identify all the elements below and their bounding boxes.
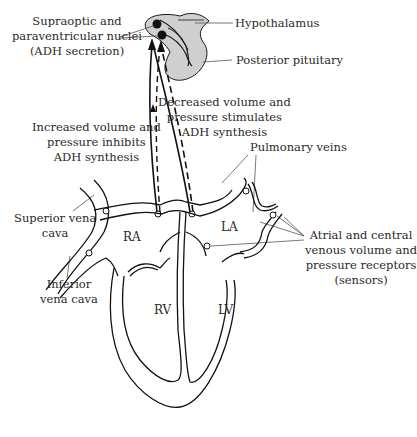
- label-hypothalamus: Hypothalamus: [235, 16, 319, 31]
- label-line: ADH synthesis: [158, 125, 291, 140]
- label-line: paraventricular nuclei: [12, 29, 142, 44]
- label-line: pressure inhibits: [32, 135, 161, 150]
- label-line: Supraoptic and: [12, 14, 142, 29]
- label-atrial-receptors: Atrial and central venous volume and pre…: [305, 228, 417, 288]
- label-line: Atrial and central: [305, 228, 417, 243]
- label-line: pressure stimulates: [158, 110, 291, 125]
- label-line: (ADH secretion): [12, 44, 142, 59]
- label-pulmonary-veins: Pulmonary veins: [250, 140, 347, 155]
- label-left-ventricle: LV: [218, 303, 233, 318]
- label-right-ventricle: RV: [154, 303, 171, 318]
- label-inferior-vena-cava: Inferior vena cava: [40, 277, 98, 307]
- label-line: Inferior: [40, 277, 98, 292]
- label-left-atrium: LA: [221, 220, 238, 235]
- label-line: Increased volume and: [32, 120, 161, 135]
- receptor-sensors: [86, 188, 276, 256]
- label-line: Decreased volume and: [158, 95, 291, 110]
- label-line: Superior vena: [14, 211, 96, 226]
- label-right-atrium: RA: [123, 230, 141, 245]
- label-line: ADH synthesis: [32, 150, 161, 165]
- label-supraoptic-nuclei: Supraoptic and paraventricular nuclei (A…: [12, 14, 142, 59]
- label-increased-volume: Increased volume and pressure inhibits A…: [32, 120, 161, 165]
- label-superior-vena-cava: Superior vena cava: [14, 211, 96, 241]
- label-line: (sensors): [305, 273, 417, 288]
- label-decreased-volume: Decreased volume and pressure stimulates…: [158, 95, 291, 140]
- label-line: venous volume and: [305, 243, 417, 258]
- label-line: cava: [14, 226, 96, 241]
- label-line: vena cava: [40, 292, 98, 307]
- label-line: pressure receptors: [305, 258, 417, 273]
- label-posterior-pituitary: Posterior pituitary: [236, 53, 343, 68]
